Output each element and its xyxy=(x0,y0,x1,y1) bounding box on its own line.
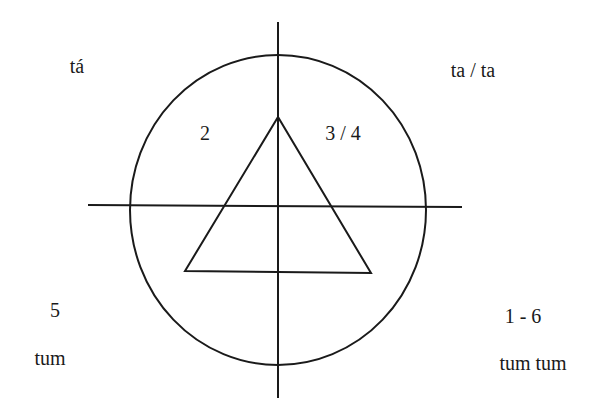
bottom-right-syllable-label: tum tum xyxy=(499,353,566,373)
top-left-syllable-label: tá xyxy=(70,56,84,76)
horizontal-axis xyxy=(88,205,462,207)
inner-top-left-count-label: 2 xyxy=(200,123,210,143)
bottom-left-count-label: 5 xyxy=(50,300,60,320)
inner-top-right-count-label: 3 / 4 xyxy=(325,123,361,143)
top-right-syllable-label: ta / ta xyxy=(451,60,495,80)
bottom-left-syllable-label: tum xyxy=(34,348,65,368)
bottom-right-count-label: 1 - 6 xyxy=(505,306,542,326)
rhythm-diagram: tá ta / ta 2 3 / 4 5 tum 1 - 6 tum tum xyxy=(0,0,607,415)
